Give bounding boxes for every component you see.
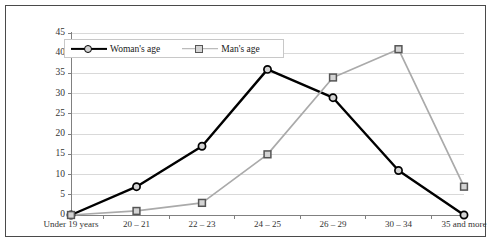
data-point-marker [133,208,140,215]
legend-label-mans-age: Man's age [221,44,259,54]
data-point-marker [133,183,140,190]
legend-label-womans-age: Woman's age [110,44,160,54]
data-point-marker [330,74,337,81]
legend-item-mans-age: Man's age [182,43,259,54]
data-point-marker [199,199,206,206]
x-tick-label: 35 and more [442,220,487,229]
data-point-marker [198,143,205,150]
data-point-marker [68,212,75,219]
legend-item-womans-age: Woman's age [71,43,160,54]
data-point-marker [264,66,271,73]
x-tick-label: 24 – 25 [254,220,281,229]
data-point-marker [395,167,402,174]
legend-swatch-circle-icon [71,43,107,54]
x-tick-label: 26 – 29 [320,220,347,229]
data-point-marker [395,46,402,53]
x-tick-label: 20 – 21 [123,220,150,229]
x-tick-label: 30 – 34 [385,220,412,229]
legend-swatch-square-icon [182,43,218,54]
data-point-marker [264,151,271,158]
data-point-marker [329,94,336,101]
x-tick-label: 22 – 23 [189,220,216,229]
chart-frame: 051015202530354045 Under 19 years20 – 21… [5,5,486,237]
x-tick-label: Under 19 years [44,220,99,229]
chart-legend: Woman's age Man's age [64,39,284,58]
data-point-marker [460,211,467,218]
data-point-marker [461,183,468,190]
chart-plot-area: 051015202530354045 Under 19 years20 – 21… [16,15,475,227]
